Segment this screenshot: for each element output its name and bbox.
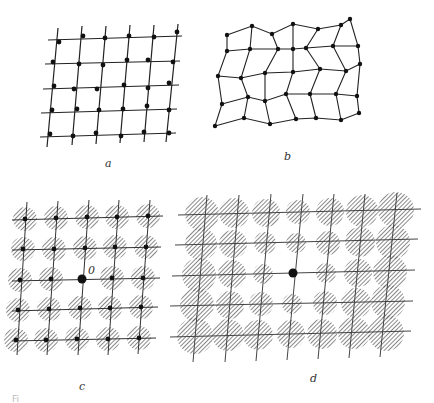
panel-a-atoms [48,30,180,139]
panel-b-label: b [284,150,291,163]
figure-canvas: a b [0,0,434,403]
caption-fragment: Fi [12,394,19,403]
panel-c-origin-atom [78,275,87,284]
panel-c-label: c [79,380,85,393]
panel-d-label: d [310,372,317,385]
panel-a-label: a [105,157,112,170]
panel-d-origin-atom [289,269,298,278]
panel-c-origin-label: 0 [88,264,95,277]
panel-b [215,19,360,126]
